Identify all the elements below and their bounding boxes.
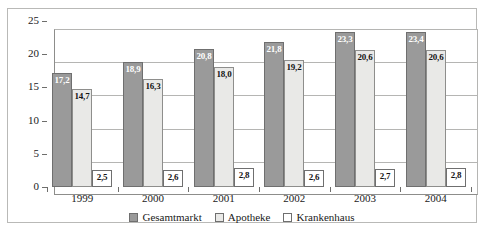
y-axis-tick-label: 25 [8,15,39,26]
y-axis-tick-label: 0 [8,181,39,192]
y-axis-tick-label: 15 [8,81,39,92]
bar: 2,5 [92,170,112,187]
y-axis-tick-mark [42,154,47,155]
bar-value-label: 2,5 [93,173,111,182]
gridline [55,29,477,30]
bar-value-label: 18,0 [215,70,233,79]
x-axis-tick-label: 2003 [330,193,401,204]
bar: 21,8 [264,42,284,187]
x-axis-tick-mark [330,187,331,192]
bar: 16,3 [143,79,163,187]
chart-legend: GesamtmarktApothekeKrankenhaus [8,212,476,223]
legend-item: Apotheke [215,212,271,223]
y-axis-tick-label: 20 [8,48,39,59]
x-axis-tick-label: 2002 [259,193,330,204]
legend-label: Gesamtmarkt [142,212,201,223]
legend-item: Krankenhaus [283,212,354,223]
bar-value-label: 20,6 [427,53,445,62]
bar: 23,3 [335,32,355,187]
bar: 2,8 [234,168,254,187]
bar-value-label: 17,2 [53,76,71,85]
bar: 20,6 [355,50,375,187]
x-axis-tick-label: 1999 [47,193,118,204]
legend-swatch-icon [283,213,292,222]
x-axis-tick-label: 2000 [118,193,189,204]
x-axis-tick-mark [47,187,48,192]
x-axis-tick-mark [400,187,401,192]
bar: 18,0 [214,67,234,187]
bar-value-label: 2,7 [376,172,394,181]
bar-value-label: 16,3 [144,82,162,91]
bar-value-label: 23,4 [407,35,425,44]
bar: 18,9 [123,62,143,187]
x-axis-tick-mark [471,187,472,192]
bar: 23,4 [406,32,426,187]
legend-label: Krankenhaus [296,212,354,223]
x-axis-tick-label: 2004 [400,193,471,204]
x-axis-tick-mark [188,187,189,192]
bar-value-label: 2,6 [164,173,182,182]
y-axis-tick-mark [42,54,47,55]
legend-label: Apotheke [228,212,271,223]
bar-value-label: 19,2 [285,63,303,72]
bar-value-label: 2,8 [447,171,465,180]
y-axis-tick-label: 5 [8,148,39,159]
x-axis-tick-mark [118,187,119,192]
legend-swatch-icon [129,213,138,222]
y-axis-tick-label: 10 [8,115,39,126]
bar: 2,7 [375,169,395,187]
x-axis-tick-mark [259,187,260,192]
bar: 2,6 [163,170,183,187]
bar-value-label: 20,8 [195,52,213,61]
bar-value-label: 18,9 [124,65,142,74]
bar-value-label: 2,8 [235,171,253,180]
bar-value-label: 2,6 [305,173,323,182]
bar-value-label: 14,7 [73,92,91,101]
bar-value-label: 21,8 [265,45,283,54]
bar: 14,7 [72,89,92,187]
y-axis-tick-mark [42,87,47,88]
bar-value-label: 20,6 [356,53,374,62]
bar: 20,8 [194,49,214,187]
bar: 19,2 [284,60,304,187]
x-axis-tick-label: 2001 [188,193,259,204]
bar: 2,8 [446,168,466,187]
chart-frame: 0510152025199920002001200220032004 17,21… [7,8,477,223]
bar: 2,6 [304,170,324,187]
y-axis-tick-mark [42,121,47,122]
bar: 20,6 [426,50,446,187]
y-axis-tick-mark [42,21,47,22]
chart-root: 0510152025199920002001200220032004 17,21… [0,0,489,236]
legend-item: Gesamtmarkt [129,212,201,223]
bar: 17,2 [52,73,72,187]
bar-value-label: 23,3 [336,35,354,44]
legend-swatch-icon [215,213,224,222]
